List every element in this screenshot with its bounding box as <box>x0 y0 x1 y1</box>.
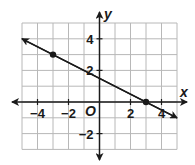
y-tick-label: −2 <box>79 127 94 142</box>
data-point <box>143 99 149 105</box>
origin-label: O <box>85 103 96 119</box>
x-axis-label: x <box>179 84 189 100</box>
data-point <box>50 51 56 57</box>
y-axis-label: y <box>103 6 113 22</box>
y-tick-label: 2 <box>86 63 93 78</box>
x-tick-label: 2 <box>127 106 134 121</box>
x-tick-label: −2 <box>61 106 76 121</box>
x-tick-label: −4 <box>30 106 46 121</box>
coordinate-plane: −4−22442−2 y x O <box>0 0 195 165</box>
y-tick-label: 4 <box>86 32 94 47</box>
